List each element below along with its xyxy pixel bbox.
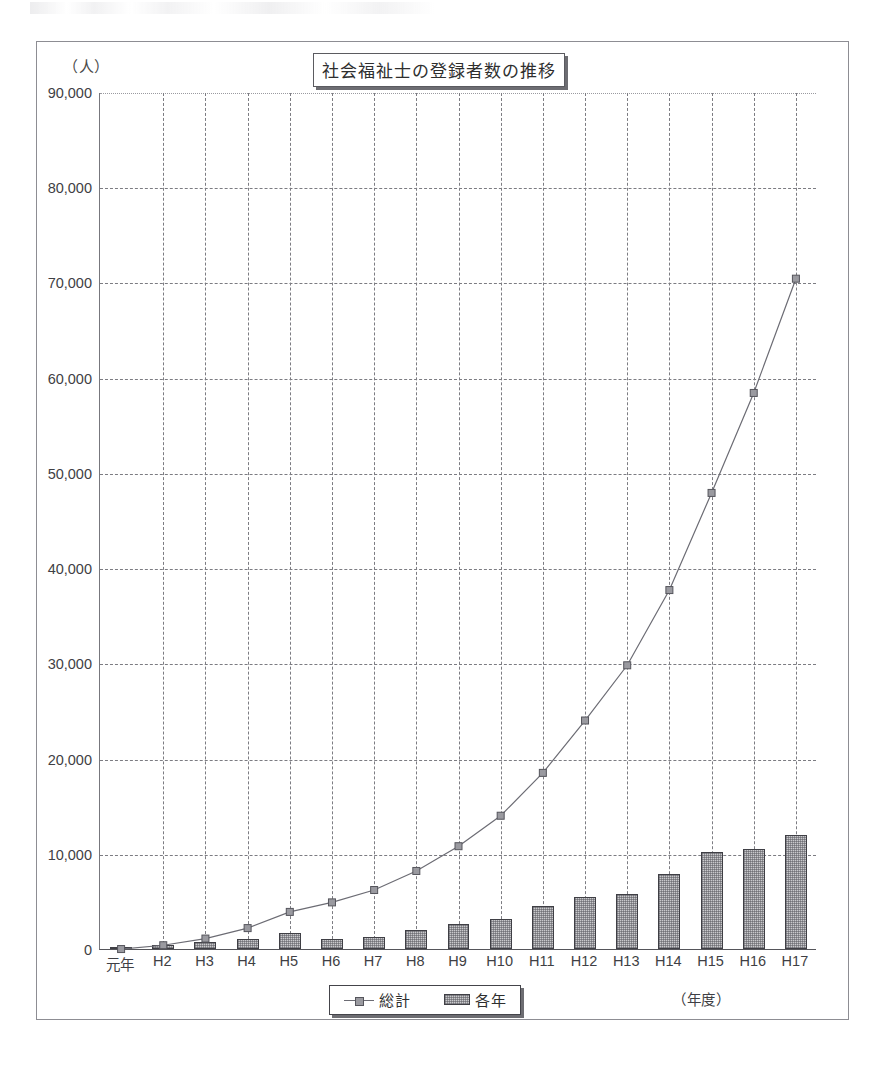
line-marker-元年 — [118, 946, 125, 953]
plot-area — [99, 93, 816, 950]
chart-title-box: 社会福祉士の登録者数の推移 — [313, 53, 565, 87]
line-marker-H15 — [708, 489, 715, 496]
x-tick-label-H14: H14 — [655, 953, 682, 969]
legend-label-total: 総計 — [379, 989, 410, 1010]
x-tick-label-H11: H11 — [529, 953, 555, 969]
y-tick-label-20000: 20,000 — [48, 752, 92, 768]
scan-artifact — [30, 2, 490, 14]
line-series-総計 — [100, 93, 817, 950]
x-tick-label-H7: H7 — [364, 953, 383, 969]
y-tick-label-70000: 70,000 — [48, 275, 92, 291]
y-tick-label-10000: 10,000 — [48, 847, 92, 863]
y-tick-label-90000: 90,000 — [48, 85, 92, 101]
x-tick-label-H10: H10 — [486, 953, 513, 969]
x-axis-title: （年度） — [672, 988, 730, 1009]
x-tick-label-H2: H2 — [153, 953, 172, 969]
line-marker-icon — [344, 995, 374, 1005]
y-tick-label-60000: 60,000 — [48, 371, 92, 387]
line-marker-H12 — [582, 717, 589, 724]
line-marker-H2 — [160, 942, 167, 949]
plot-inner — [100, 93, 816, 949]
line-marker-H3 — [202, 935, 209, 942]
x-tick-label-H13: H13 — [613, 953, 640, 969]
line-marker-H7 — [371, 887, 378, 894]
line-marker-H9 — [455, 843, 462, 850]
line-marker-H10 — [497, 812, 504, 819]
bar-swatch-icon — [444, 994, 470, 1005]
line-marker-H11 — [539, 769, 546, 776]
line-marker-H13 — [624, 662, 631, 669]
x-tick-label-H4: H4 — [237, 953, 256, 969]
x-tick-label-H16: H16 — [739, 953, 766, 969]
chart-legend: 総計 各年 — [329, 985, 521, 1015]
line-marker-H17 — [792, 275, 799, 282]
x-tick-label-H17: H17 — [782, 953, 809, 969]
page-title: 社会福祉士の登録者数の推移 — [322, 62, 556, 81]
y-axis-unit-label: （人） — [63, 55, 110, 76]
y-tick-label-50000: 50,000 — [48, 466, 92, 482]
line-marker-H14 — [666, 587, 673, 594]
x-tick-label-H15: H15 — [697, 953, 724, 969]
legend-item-yearly: 各年 — [444, 989, 506, 1010]
x-tick-label-元年: 元年 — [106, 953, 134, 974]
y-tick-label-40000: 40,000 — [48, 561, 92, 577]
y-tick-label-80000: 80,000 — [48, 180, 92, 196]
x-axis-labels: 元年H2H3H4H5H6H7H8H9H10H11H12H13H14H15H16H… — [99, 953, 816, 977]
legend-label-yearly: 各年 — [475, 989, 506, 1010]
y-tick-label-30000: 30,000 — [48, 656, 92, 672]
x-tick-label-H9: H9 — [448, 953, 467, 969]
x-tick-label-H3: H3 — [195, 953, 214, 969]
y-axis-labels: 90,00080,00070,00060,00050,00040,00030,0… — [30, 93, 92, 950]
x-tick-label-H5: H5 — [280, 953, 299, 969]
y-tick-label-0: 0 — [84, 942, 92, 958]
line-marker-H4 — [244, 925, 251, 932]
x-tick-label-H12: H12 — [571, 953, 598, 969]
x-tick-label-H8: H8 — [406, 953, 425, 969]
line-marker-H6 — [328, 899, 335, 906]
line-marker-H16 — [750, 389, 757, 396]
x-tick-label-H6: H6 — [322, 953, 341, 969]
line-marker-H5 — [286, 908, 293, 915]
legend-item-total: 総計 — [344, 989, 410, 1010]
line-marker-H8 — [413, 867, 420, 874]
